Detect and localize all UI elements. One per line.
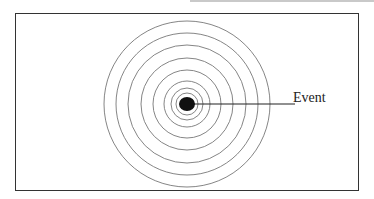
event-center-dot: [179, 97, 195, 111]
event-label: Event: [293, 90, 326, 106]
